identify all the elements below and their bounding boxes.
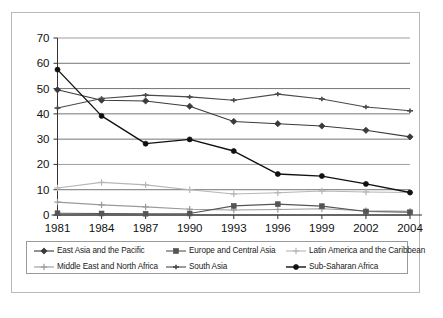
legend-marker-dash-icon [165,262,187,272]
legend-item-middle-east-and-north-africa[interactable]: Middle East and North Africa [33,259,158,275]
series-latin-america-and-the-caribbean [54,179,413,197]
y-tick-label: 40 [37,108,50,120]
data-point [408,190,413,195]
legend-marker-plus-icon [33,262,55,272]
legend-label: Latin America and the Caribbean [309,246,425,256]
data-point [408,210,413,215]
data-point [143,211,148,216]
legend-label: Sub-Saharan Africa [309,262,378,272]
legend-item-latin-america-and-the-caribbean[interactable]: Latin America and the Caribbean [285,243,425,259]
x-tick-label: 2002 [353,222,379,234]
legend-marker-square-icon [165,246,187,256]
y-tick-label: 70 [37,32,50,44]
legend-swatch-svg [285,246,307,256]
legend-marker-circle-icon [285,262,307,272]
x-tick-label: 1996 [265,222,291,234]
data-point [187,137,192,142]
data-point [294,265,299,270]
data-point [99,113,104,118]
legend-row-2: Middle East and North Africa South Asia … [27,259,407,275]
series-line [58,70,411,193]
legend-swatch-svg [165,246,187,256]
series-sub-saharan-africa [55,67,413,195]
legend-row-1: East Asia and the Pacific Europe and Cen… [27,243,407,259]
legend-swatch-svg [285,262,307,272]
y-tick-label: 30 [37,133,50,145]
data-point [231,118,237,124]
legend-item-east-asia-and-the-pacific[interactable]: East Asia and the Pacific [33,243,145,259]
legend-item-south-asia[interactable]: South Asia [165,259,227,275]
x-tick-label: 1990 [177,222,203,234]
legend-marker-plus-icon [285,246,307,256]
data-point [319,204,324,209]
x-tick-label: 2004 [397,222,423,234]
legend-item-sub-saharan-africa[interactable]: Sub-Saharan Africa [285,259,378,275]
legend-label: East Asia and the Pacific [57,246,145,256]
data-point [275,121,281,127]
data-point [187,103,193,109]
legend-item-europe-and-central-asia[interactable]: Europe and Central Asia [165,243,275,259]
data-point [363,127,369,133]
series-line [58,90,411,137]
data-point [99,211,104,216]
data-point [54,87,60,93]
legend-swatch-svg [33,262,55,272]
figure-container: 0102030405060701981198419871990199319961… [0,0,443,318]
chart-legend: East Asia and the Pacific Europe and Cen… [26,241,408,274]
y-tick-label: 60 [37,57,50,69]
data-point [55,67,60,72]
data-point [319,123,325,129]
data-point [231,203,236,208]
data-point [363,181,368,186]
legend-label: Europe and Central Asia [189,246,275,256]
x-tick-label: 1999 [309,222,335,234]
data-point [364,209,369,214]
data-point [41,248,47,254]
legend-swatch-svg [33,246,55,256]
data-point [143,98,149,104]
data-point [275,172,280,177]
data-point [187,211,192,216]
legend-label: Middle East and North Africa [57,262,158,272]
data-point [55,211,60,216]
legend-label: South Asia [189,262,227,272]
series-east-asia-and-the-pacific [54,87,413,140]
x-tick-label: 1981 [45,222,71,234]
data-point [275,202,280,207]
data-point [231,149,236,154]
legend-swatch-svg [165,262,187,272]
data-point [143,141,148,146]
y-tick-label: 50 [37,83,50,95]
series-line [58,94,411,111]
y-tick-label: 20 [37,158,50,170]
data-point [174,249,179,254]
series-south-asia [55,92,414,113]
y-tick-label: 10 [37,184,50,196]
data-point [319,174,324,179]
x-tick-label: 1993 [221,222,247,234]
x-tick-label: 1987 [133,222,159,234]
y-tick-label: 0 [43,209,49,221]
legend-marker-diamond-icon [33,246,55,256]
x-tick-label: 1984 [89,222,115,234]
